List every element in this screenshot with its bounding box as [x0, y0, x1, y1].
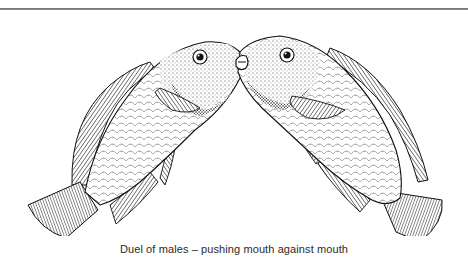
- top-rule: [0, 8, 468, 10]
- figure-caption: Duel of males – pushing mouth against mo…: [0, 243, 468, 255]
- fish-left-icon: [28, 42, 243, 236]
- fish-right-icon: [236, 36, 442, 236]
- fish-duel-illustration: [0, 14, 468, 236]
